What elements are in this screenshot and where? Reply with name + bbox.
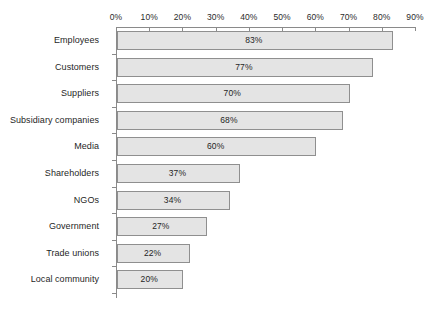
x-axis-line: [116, 27, 415, 28]
bar-value-label: 37%: [116, 164, 239, 183]
y-tick-mark: [112, 107, 116, 108]
bar-chart: 0%10%20%30%40%50%60%70%80%90% EmployeesC…: [0, 0, 431, 312]
category-label: Suppliers: [0, 88, 99, 98]
x-tick-label: 30%: [207, 12, 224, 22]
category-label: Customers: [0, 62, 99, 72]
x-tick-label: 60%: [307, 12, 324, 22]
x-tick-label: 90%: [406, 12, 423, 22]
x-tick-label: 80%: [373, 12, 390, 22]
y-tick-mark: [112, 54, 116, 55]
category-label: Employees: [0, 35, 99, 45]
bar-value-label: 27%: [116, 217, 206, 236]
category-label: Subsidiary companies: [0, 115, 99, 125]
bar-value-label: 60%: [116, 137, 315, 156]
bar-value-label: 68%: [116, 111, 342, 130]
x-tick-label: 10%: [141, 12, 158, 22]
x-axis-tick-labels: 0%10%20%30%40%50%60%70%80%90%: [0, 12, 431, 24]
category-label: Media: [0, 141, 99, 151]
y-tick-mark: [112, 240, 116, 241]
y-tick-mark: [112, 293, 116, 294]
x-tick-label: 0%: [110, 12, 123, 22]
bar-value-label: 83%: [116, 31, 392, 50]
y-tick-mark: [112, 187, 116, 188]
x-tick-mark: [415, 27, 416, 31]
category-label: NGOs: [0, 195, 99, 205]
bar-value-label: 34%: [116, 191, 229, 210]
x-tick-label: 20%: [174, 12, 191, 22]
y-tick-mark: [112, 213, 116, 214]
bar-value-label: 77%: [116, 58, 372, 77]
y-tick-mark: [112, 80, 116, 81]
category-label: Trade unions: [0, 248, 99, 258]
category-label: Shareholders: [0, 168, 99, 178]
x-tick-label: 40%: [240, 12, 257, 22]
bar-value-label: 70%: [116, 84, 349, 103]
y-tick-mark: [112, 160, 116, 161]
bar-value-label: 22%: [116, 244, 189, 263]
y-tick-mark: [112, 266, 116, 267]
x-tick-label: 50%: [273, 12, 290, 22]
category-label: Government: [0, 221, 99, 231]
x-tick-label: 70%: [340, 12, 357, 22]
category-label: Local community: [0, 274, 99, 284]
bar-value-label: 20%: [116, 270, 182, 289]
y-tick-mark: [112, 133, 116, 134]
